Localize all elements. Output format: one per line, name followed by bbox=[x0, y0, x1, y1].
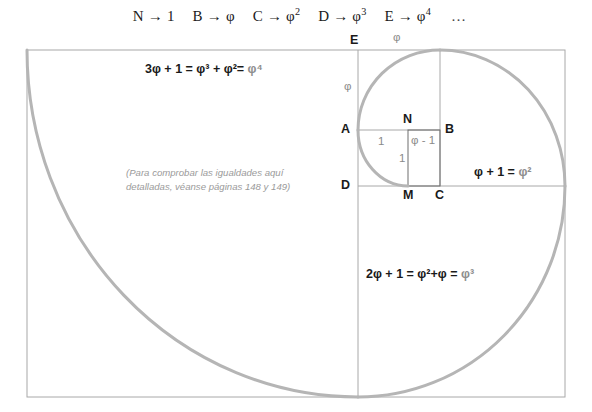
equation-top-gray: φ⁴ bbox=[248, 62, 263, 76]
golden-ratio-diagram bbox=[0, 0, 592, 412]
inner-label-phi-minus-one: φ - 1 bbox=[411, 134, 435, 146]
inner-label-one-horizontal: 1 bbox=[378, 135, 384, 147]
vertex-label-N: N bbox=[403, 112, 412, 126]
phi-label-top: φ bbox=[393, 31, 400, 43]
spiral-arc-phi3 bbox=[358, 186, 565, 397]
spiral-arc-phi4 bbox=[27, 50, 358, 397]
equation-top-black: 3φ + 1 = φ³ + φ²= bbox=[145, 62, 244, 76]
equation-top: 3φ + 1 = φ³ + φ²= φ⁴ bbox=[145, 62, 263, 76]
equation-right: φ + 1 = φ² bbox=[474, 165, 532, 179]
vertex-label-A: A bbox=[341, 122, 350, 136]
vertex-label-E: E bbox=[350, 33, 358, 47]
equation-bottom-black: 2φ + 1 = φ²+φ = bbox=[366, 267, 457, 281]
vertex-label-B: B bbox=[445, 122, 454, 136]
equation-right-gray: φ² bbox=[518, 165, 531, 179]
figure-page: N → 1 B → φ C → φ2 D → φ3 E → φ4 … 3φ + … bbox=[0, 0, 592, 412]
vertex-label-M: M bbox=[403, 188, 413, 202]
outer-rectangle bbox=[27, 50, 565, 397]
equation-bottom: 2φ + 1 = φ²+φ = φ³ bbox=[366, 267, 474, 281]
equation-bottom-gray: φ³ bbox=[461, 267, 474, 281]
equation-right-black: φ + 1 = bbox=[474, 165, 515, 179]
reference-note: (Para comprobar las igualdades aquí deta… bbox=[126, 166, 306, 194]
spiral-arc-phi bbox=[358, 50, 440, 130]
phi-label-left: φ bbox=[344, 80, 351, 92]
vertex-label-C: C bbox=[435, 188, 444, 202]
inner-label-one-vertical: 1 bbox=[399, 152, 405, 164]
vertex-label-D: D bbox=[341, 178, 350, 192]
